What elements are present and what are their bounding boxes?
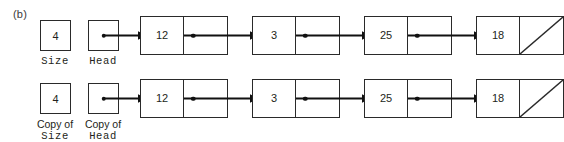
list-node-tail: 18 (476, 79, 564, 118)
node-data-value: 25 (380, 93, 392, 104)
node-data-value: 3 (271, 30, 277, 41)
node-data-value: 18 (492, 30, 504, 41)
arrow-node-3-to-node-4 (408, 30, 484, 41)
node-data-value: 12 (156, 30, 168, 41)
node-data-cell: 25 (365, 17, 408, 54)
arrow-node-2-to-node-3 (296, 93, 372, 104)
copy-head-variable-caption: Copy of Head (67, 118, 139, 142)
list-node-tail: 18 (476, 16, 564, 55)
arrow-node-1-to-node-2 (184, 93, 260, 104)
node-null-pointer-cell (520, 80, 563, 117)
copy-head-caption-name: Head (67, 130, 139, 142)
arrow-node-2-to-node-3 (296, 30, 372, 41)
copy-size-variable-box: 4 (40, 83, 71, 114)
node-data-value: 25 (380, 30, 392, 41)
node-data-value: 3 (271, 93, 277, 104)
node-null-pointer-cell (520, 17, 563, 54)
node-data-value: 18 (492, 93, 504, 104)
size-variable-box: 4 (40, 20, 71, 51)
node-data-value: 12 (156, 93, 168, 104)
node-data-cell: 12 (141, 17, 184, 54)
arrow-node-3-to-node-4 (408, 93, 484, 104)
arrow-node-1-to-node-2 (184, 30, 260, 41)
node-data-cell: 18 (477, 17, 520, 54)
head-variable-caption: Head (67, 55, 139, 67)
node-data-cell: 18 (477, 80, 520, 117)
node-data-cell: 3 (253, 17, 296, 54)
diagram-row-original: 4 Size Head 12 (0, 14, 482, 74)
copy-size-value: 4 (41, 93, 70, 104)
head-caption-name: Head (67, 55, 139, 67)
null-pointer-slash-icon (520, 17, 563, 54)
size-value: 4 (41, 30, 70, 41)
node-data-cell: 3 (253, 80, 296, 117)
null-pointer-slash-icon (520, 80, 563, 117)
node-data-cell: 12 (141, 80, 184, 117)
copy-head-caption-prefix: Copy of (67, 118, 139, 130)
node-data-cell: 25 (365, 80, 408, 117)
diagram-row-copy: 4 Copy of Size Copy of Head 12 (0, 77, 482, 137)
